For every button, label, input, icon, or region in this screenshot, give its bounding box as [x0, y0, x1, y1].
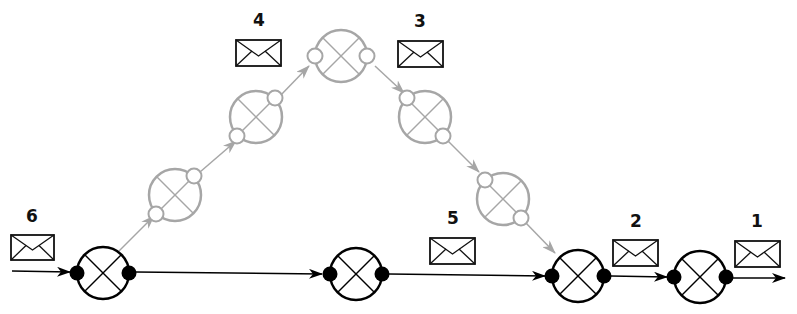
envelope-icon: [430, 238, 475, 264]
message-label: 4: [253, 10, 265, 30]
edge-b-c: [389, 274, 545, 276]
edge-g1-g2: [200, 141, 236, 172]
node-c[interactable]: [545, 250, 612, 302]
node-g4[interactable]: [399, 91, 451, 144]
input-port: [400, 91, 415, 106]
edge-g3-g4: [375, 66, 404, 93]
output-port: [187, 169, 202, 184]
node-g3[interactable]: [308, 30, 375, 82]
edge-a-b: [136, 272, 322, 274]
output-port: [597, 269, 612, 284]
output-port: [719, 270, 734, 285]
node-d[interactable]: [667, 251, 734, 303]
message-routing-diagram: 6 4 3 5: [0, 0, 797, 314]
output-port: [360, 49, 375, 64]
output-port: [436, 129, 451, 144]
message-label: 3: [414, 11, 426, 31]
input-port: [70, 266, 85, 281]
envelope-icon: [613, 240, 658, 266]
node-a[interactable]: [70, 247, 137, 299]
message-label: 2: [630, 211, 642, 231]
message-5: 5: [430, 208, 475, 264]
envelope-icon: [735, 241, 780, 267]
node-b[interactable]: [323, 248, 390, 300]
input-port: [478, 173, 493, 188]
input-port: [230, 129, 245, 144]
message-label: 1: [751, 211, 763, 231]
input-port: [667, 270, 682, 285]
edge-g4-g5: [447, 140, 479, 172]
input-port: [149, 207, 164, 222]
message-4: 4: [236, 10, 281, 66]
message-6: 6: [11, 206, 54, 260]
input-arrow: [12, 271, 70, 272]
edge-g5-c: [524, 221, 555, 253]
message-label: 5: [447, 208, 459, 228]
inactive-path: [118, 66, 555, 253]
edge-a-g1: [118, 216, 154, 252]
node-g2[interactable]: [230, 91, 283, 144]
output-port: [514, 211, 529, 226]
input-port: [308, 49, 323, 64]
edge-c-d: [611, 276, 667, 277]
output-port: [268, 91, 283, 106]
envelope-icon: [398, 41, 443, 67]
message-label: 6: [26, 206, 38, 226]
envelope-icon: [11, 235, 54, 260]
envelope-icon: [236, 40, 281, 66]
input-port: [323, 267, 338, 282]
message-3: 3: [398, 11, 443, 67]
message-2: 2: [613, 211, 658, 266]
input-port: [545, 269, 560, 284]
node-g1[interactable]: [149, 169, 202, 222]
edge-g2-g3: [278, 66, 309, 98]
output-port: [375, 267, 390, 282]
output-port: [122, 266, 137, 281]
message-1: 1: [735, 211, 780, 267]
node-g5[interactable]: [477, 173, 529, 226]
